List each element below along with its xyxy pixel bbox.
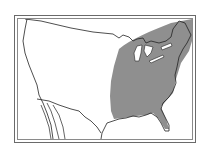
baja-california (41, 103, 65, 139)
west-coast (23, 19, 53, 139)
map-frame (14, 15, 196, 143)
map-frame-inner (17, 18, 193, 140)
mexico-border (37, 99, 101, 133)
us-range-map (18, 19, 192, 139)
